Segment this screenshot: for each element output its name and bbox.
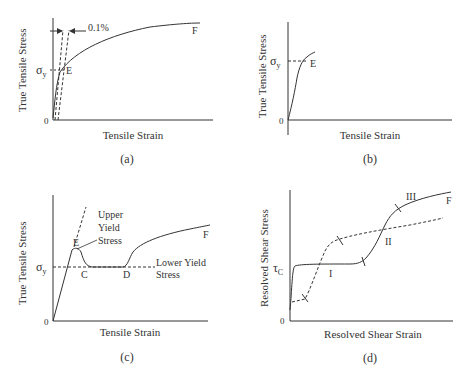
point-e-label: E: [310, 58, 316, 69]
point-e-label: E: [73, 237, 79, 248]
zero-label: 0: [44, 116, 49, 126]
stage-i-label: I: [329, 268, 332, 279]
x-axis-label: Tensile Strain: [103, 129, 164, 141]
point-d-label: D: [123, 269, 130, 280]
y-axis-label: True Tensile Stress: [16, 28, 28, 112]
y-axis-label: True Tensile Stress: [256, 34, 268, 118]
caption-a: (a): [120, 152, 133, 166]
point-f-label: F: [446, 195, 452, 206]
stage-iii-label: III: [406, 191, 416, 202]
y-axis-label: True Tensile Stress: [16, 221, 28, 305]
figure: 0.1% E F σy 0 True Tensile Stress Tensil…: [0, 0, 467, 382]
upper-yield-label-2: Yield: [98, 222, 120, 233]
offset-label: 0.1%: [88, 22, 109, 33]
point-f-label: F: [192, 25, 198, 36]
zero-label: 0: [44, 317, 49, 327]
upper-yield-label-1: Upper: [98, 209, 124, 220]
panel-a: 0.1% E F σy 0 True Tensile Stress Tensil…: [16, 18, 213, 166]
caption-b: (b): [363, 152, 377, 166]
point-e-label: E: [66, 65, 72, 76]
sigma-y-label: σy: [36, 260, 46, 276]
stage-ii-label: II: [385, 236, 392, 247]
caption-c: (c): [120, 350, 133, 364]
y-axis-label: Resolved Shear Stress: [258, 209, 270, 307]
upper-yield-label-3: Stress: [98, 235, 122, 246]
zero-label: 0: [280, 316, 285, 326]
panel-d: I II III F τC 0 Resolved Shear Stress Re…: [258, 190, 453, 365]
point-f-label: F: [203, 229, 209, 240]
x-axis-label: Tensile Strain: [100, 326, 161, 338]
sigma-y-label: σy: [36, 63, 46, 79]
point-c-label: C: [81, 269, 88, 280]
panel-c: Upper Yield Stress Lower Yield Stress E …: [16, 195, 210, 364]
x-axis-label: Tensile Strain: [340, 129, 401, 141]
x-axis-label: Resolved Shear Strain: [324, 328, 422, 340]
lower-yield-label-1: Lower Yield: [156, 257, 206, 268]
sigma-y-label: σy: [270, 54, 280, 70]
zero-label: 0: [279, 116, 284, 126]
lower-yield-label-2: Stress: [156, 269, 180, 280]
tau-c-label: τC: [273, 261, 283, 277]
caption-d: (d): [363, 351, 377, 365]
panel-b: E σy 0 True Tensile Stress Tensile Strai…: [256, 22, 452, 166]
